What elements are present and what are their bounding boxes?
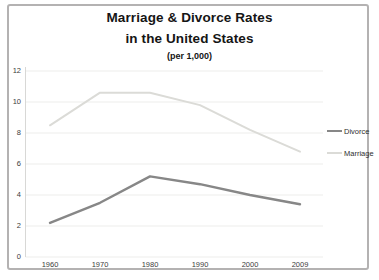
x-axis-label-2009: 2009 [280,261,320,269]
x-axis-label-1980: 1980 [130,261,170,269]
legend-item-divorce: Divorce [327,126,375,136]
legend-label-marriage: Marriage [344,149,374,158]
plot-area [0,0,379,280]
y-axis-label-12: 12 [0,67,21,75]
y-axis-label-10: 10 [0,98,21,106]
marriage-line-marker-icon [327,152,342,154]
y-axis-label-4: 4 [0,191,21,199]
x-axis-label-1960: 1960 [30,261,70,269]
divorce-line-marker-icon [327,130,342,132]
x-axis-label-2000: 2000 [230,261,270,269]
y-axis-label-2: 2 [0,222,21,230]
y-axis-label-8: 8 [0,129,21,137]
chart-legend: Divorce Marriage [327,126,375,170]
chart-image: Marriage & Divorce Rates in the United S… [0,0,379,280]
x-axis-label-1970: 1970 [80,261,120,269]
series-line-divorce [50,176,300,223]
legend-item-marriage: Marriage [327,148,375,158]
legend-label-divorce: Divorce [344,127,369,136]
x-axis-label-1990: 1990 [180,261,220,269]
y-axis-label-6: 6 [0,160,21,168]
y-axis-label-0: 0 [0,253,21,261]
